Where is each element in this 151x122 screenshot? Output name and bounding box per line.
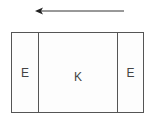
segment-left-label: E bbox=[21, 66, 29, 80]
segment-right-label: E bbox=[126, 66, 134, 80]
segment-left: E bbox=[12, 33, 39, 112]
segment-middle-label: K bbox=[74, 70, 82, 84]
left-arrow-icon bbox=[34, 6, 126, 18]
segment-right: E bbox=[118, 33, 143, 112]
segmented-box: E K E bbox=[11, 32, 144, 113]
segment-middle: K bbox=[39, 33, 118, 112]
